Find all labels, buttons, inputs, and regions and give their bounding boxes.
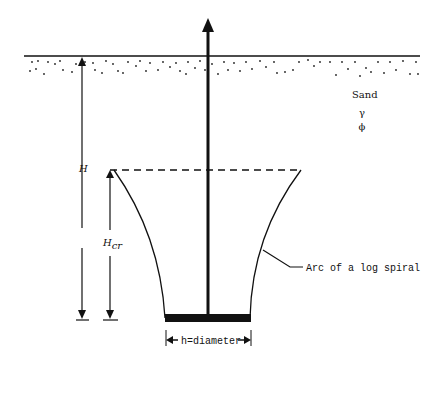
diagram-canvas: H Hcr h=diameter Arc of a log spiral San… <box>0 0 440 396</box>
phi-label: ϕ <box>359 121 366 132</box>
arc-label: Arc of a log spiral <box>306 263 420 274</box>
uplift-arrow-icon <box>202 18 214 32</box>
anchor-plate <box>165 314 251 322</box>
sand-label: Sand <box>352 89 378 100</box>
diameter-arrow-left-icon <box>166 336 173 344</box>
sand-stipple <box>29 59 419 77</box>
diameter-arrow-right-icon <box>244 336 251 344</box>
H-label: H <box>78 163 88 174</box>
Hcr-arrow-up-icon <box>106 170 114 178</box>
right-log-spiral-arc <box>250 170 301 318</box>
Hcr-label: Hcr <box>102 237 123 251</box>
H-arrow-down-icon <box>78 310 86 319</box>
arc-leader-line <box>263 250 303 267</box>
diameter-label: h=diameter <box>181 336 241 347</box>
Hcr-arrow-down-icon <box>106 310 114 319</box>
gamma-label: γ <box>359 107 365 118</box>
